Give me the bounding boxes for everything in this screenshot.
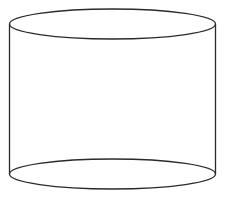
cylinder-bottom-ellipse [10, 159, 216, 189]
cylinder-svg [0, 0, 226, 197]
cylinder-diagram [0, 0, 226, 197]
cylinder-top-ellipse [10, 9, 216, 39]
